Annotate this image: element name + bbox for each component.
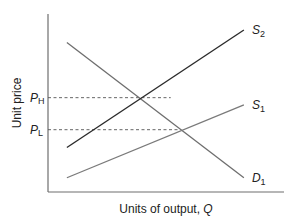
x-axis-label-text: Units of output, bbox=[119, 202, 203, 216]
curve-label-s1: S1 bbox=[252, 98, 265, 114]
y-axis-label: Unit price bbox=[10, 77, 24, 128]
x-axis-label-variable: Q bbox=[203, 202, 212, 216]
curve-s1 bbox=[67, 105, 244, 178]
price-label-p-l: PL bbox=[30, 123, 43, 138]
price-label-p-h: PH bbox=[30, 91, 45, 106]
curve-d1 bbox=[67, 42, 244, 177]
x-axis-label: Units of output, Q bbox=[119, 202, 212, 216]
supply-demand-chart: D1S2S1 PHPL Units of output, Q Unit pric… bbox=[0, 0, 299, 221]
curve-label-s2: S2 bbox=[252, 23, 265, 39]
curve-label-d1: D1 bbox=[252, 171, 266, 187]
